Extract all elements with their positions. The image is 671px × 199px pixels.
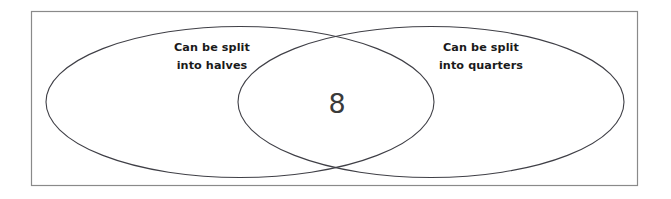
venn-diagram-figure: Can be split into halves Can be split in… bbox=[0, 0, 671, 199]
left-set-label-line1: Can be split bbox=[174, 41, 251, 54]
venn-diagram-canvas: Can be split into halves Can be split in… bbox=[0, 0, 671, 199]
left-set-label-line2: into halves bbox=[177, 59, 248, 72]
right-set-label-line1: Can be split bbox=[443, 41, 520, 54]
intersection-value: 8 bbox=[328, 88, 345, 119]
right-set-label-line2: into quarters bbox=[439, 59, 523, 72]
